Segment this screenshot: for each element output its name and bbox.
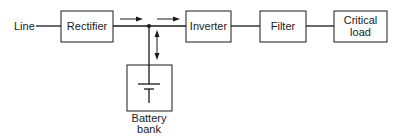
inverter-block: Inverter: [186, 11, 231, 42]
rectifier-label: Rectifier: [67, 20, 108, 32]
arrow-rectifier-to-junction: [120, 17, 143, 22]
ups-block-diagram: Line Rectifier Battery bank Inverter: [0, 0, 403, 136]
critical-load-label-line1: Critical: [344, 14, 378, 26]
battery-bank-block: Battery bank: [127, 65, 172, 135]
rectifier-block: Rectifier: [61, 11, 113, 42]
line-label: Line: [14, 20, 35, 32]
filter-label: Filter: [271, 20, 296, 32]
arrow-bidirectional-battery: [155, 30, 160, 60]
inverter-label: Inverter: [190, 20, 228, 32]
filter-block: Filter: [260, 11, 306, 42]
arrow-junction-to-inverter: [157, 17, 180, 22]
critical-load-label-line2: load: [350, 26, 371, 38]
critical-load-block: Critical load: [334, 11, 387, 42]
battery-label-line2: bank: [137, 123, 161, 135]
